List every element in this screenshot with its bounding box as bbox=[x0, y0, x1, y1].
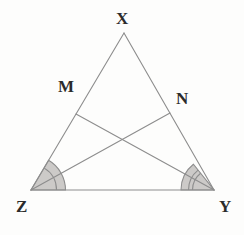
vertex-label-y: Y bbox=[219, 198, 231, 215]
angle-marker-y bbox=[181, 164, 214, 190]
vertex-label-n: N bbox=[176, 90, 188, 107]
segment-xz bbox=[31, 33, 124, 190]
vertex-label-z: Z bbox=[16, 198, 28, 215]
angle-marker-z bbox=[31, 160, 66, 190]
angle-sector-y-outer bbox=[181, 164, 214, 190]
triangle-diagram-canvas bbox=[0, 0, 244, 235]
segment-zn bbox=[31, 113, 170, 190]
vertex-label-m: M bbox=[58, 78, 74, 95]
segment-xy bbox=[124, 33, 214, 190]
vertex-label-x: X bbox=[116, 10, 128, 27]
geometry-figure: X M N Z Y bbox=[0, 0, 244, 235]
segment-my bbox=[76, 114, 214, 190]
angle-sector-z-outer bbox=[31, 160, 66, 190]
